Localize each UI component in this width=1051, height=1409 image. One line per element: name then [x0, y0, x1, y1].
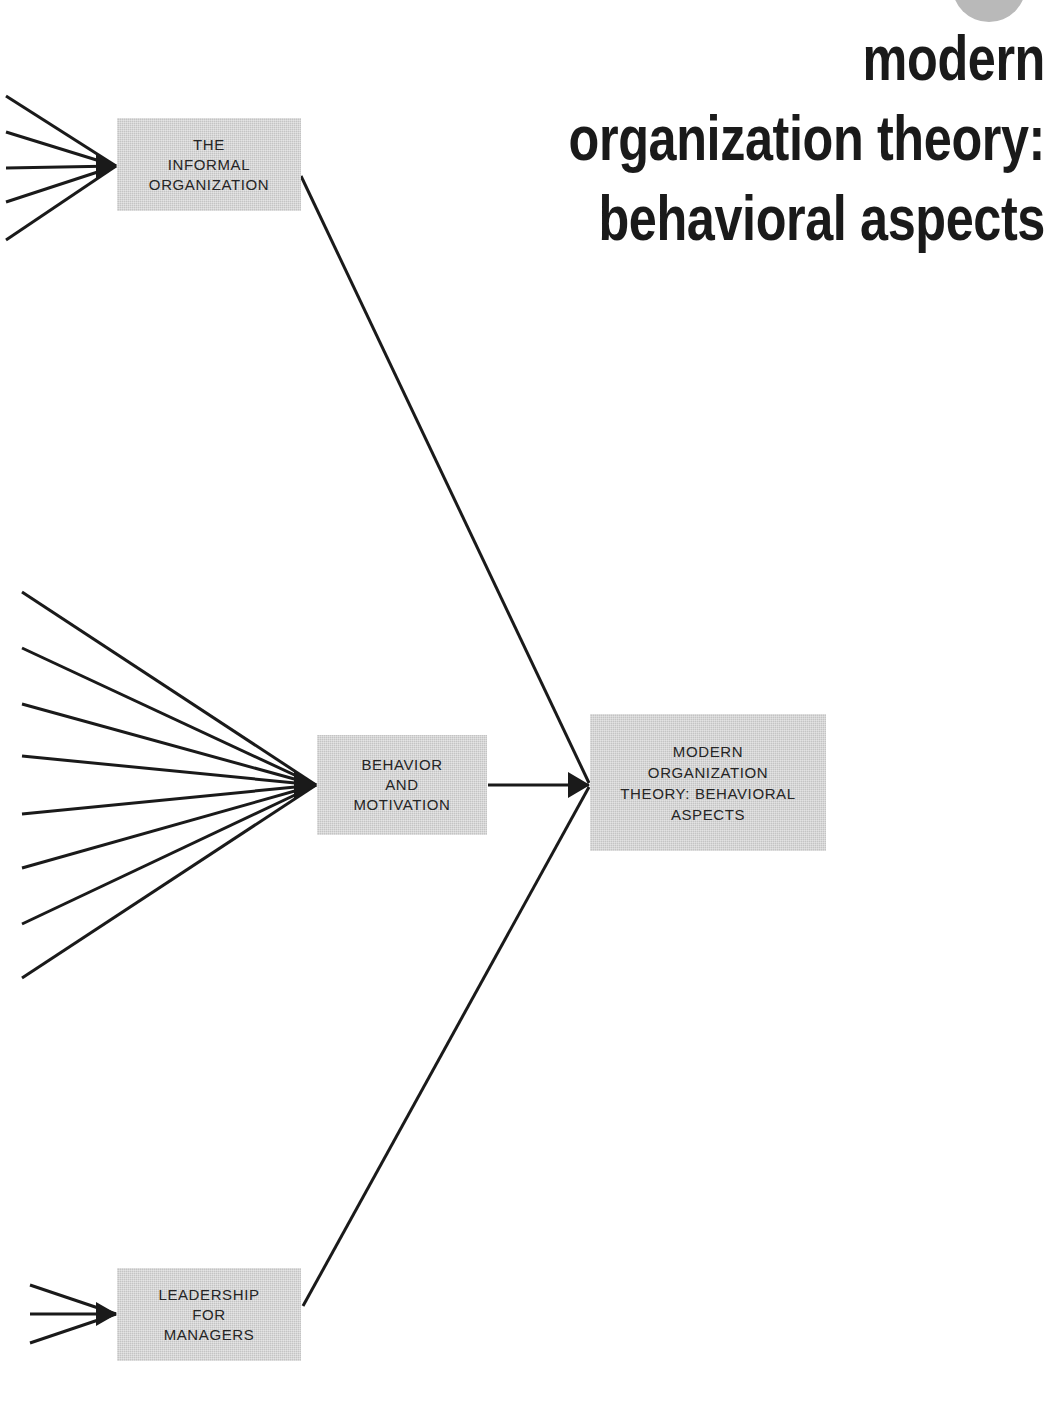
- node-leadership-managers-label: LEADERSHIP FOR MANAGERS: [154, 1283, 263, 1347]
- incoming-line: [6, 166, 116, 240]
- incoming-line: [22, 756, 316, 785]
- node-leadership-managers[interactable]: LEADERSHIP FOR MANAGERS: [117, 1268, 301, 1361]
- incoming-lines-informal-organization: [6, 96, 117, 240]
- node-informal-organization-label: THE INFORMAL ORGANIZATION: [145, 133, 273, 197]
- incoming-line: [22, 785, 316, 814]
- node-modern-org-theory[interactable]: MODERN ORGANIZATION THEORY: BEHAVIORAL A…: [590, 714, 826, 851]
- incoming-line: [22, 785, 316, 978]
- page-title: modern organization theory: behavioral a…: [533, 18, 1045, 258]
- incoming-lines-leadership-managers: [30, 1285, 117, 1343]
- node-behavior-motivation[interactable]: BEHAVIOR AND MOTIVATION: [317, 735, 487, 835]
- node-informal-organization[interactable]: THE INFORMAL ORGANIZATION: [117, 118, 301, 211]
- node-modern-org-theory-label: MODERN ORGANIZATION THEORY: BEHAVIORAL A…: [616, 739, 799, 827]
- chapter-opening-page: modern organization theory: behavioral a…: [0, 0, 1051, 1409]
- edge-informal-to-modern: [301, 176, 589, 783]
- page-title-line-3: behavioral aspects: [533, 178, 1045, 258]
- edge-leadership-to-modern: [303, 787, 589, 1306]
- page-title-line-2: organization theory:: [533, 98, 1045, 178]
- page-title-line-1: modern: [533, 18, 1045, 98]
- incoming-lines-behavior-motivation: [22, 592, 317, 978]
- incoming-line: [22, 592, 316, 785]
- arrow-head-behavior-motivation: [294, 771, 317, 799]
- arrow-head-informal-organization: [96, 153, 117, 179]
- arrow-head-leadership-managers: [96, 1302, 117, 1326]
- node-behavior-motivation-label: BEHAVIOR AND MOTIVATION: [349, 753, 454, 817]
